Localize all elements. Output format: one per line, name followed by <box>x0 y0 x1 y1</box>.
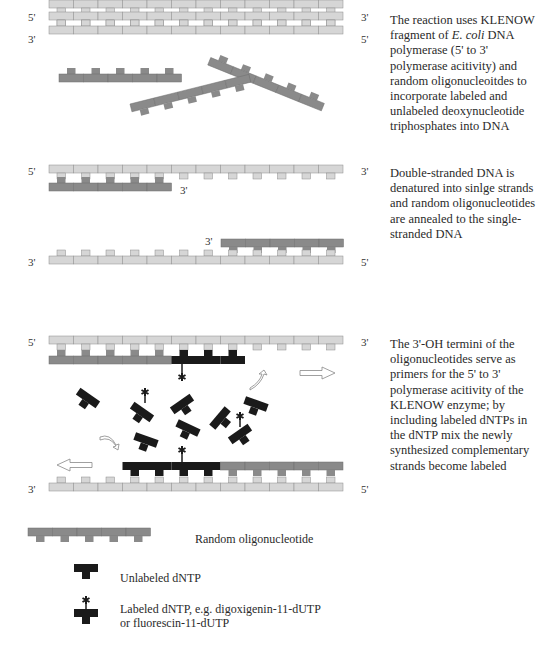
p3-top-3prime: 3' <box>361 337 368 348</box>
curved-arrow-1 <box>250 370 267 390</box>
panel2-top-strand <box>49 165 343 179</box>
panel2-bottom-strand <box>49 250 343 264</box>
panel3-bottom-primer <box>123 462 344 476</box>
legend-labeled-icon <box>74 596 98 624</box>
p1-top-5prime: 5' <box>28 12 35 23</box>
p2-top-3prime: 3' <box>361 166 368 177</box>
panel3-top-primer <box>49 350 245 364</box>
panel3-bottom-strand <box>49 477 343 491</box>
legend-oligo-label: Random oligonucleotide <box>195 532 313 546</box>
p2-bottom-3prime: 3' <box>28 257 35 268</box>
p1-top-3prime: 3' <box>361 12 368 23</box>
panel1-description: The reaction uses KLENOW fragment of E. … <box>390 13 546 135</box>
p2-bottom-5prime: 5' <box>361 257 368 268</box>
free-oligo-1 <box>59 68 182 82</box>
p2-primer2-3prime: 3' <box>205 236 212 247</box>
panel2-description: Double-stranded DNA is denatured into si… <box>390 166 535 242</box>
free-dntps <box>72 388 269 455</box>
legend-unlabeled-label: Unlabeled dNTP <box>120 571 201 585</box>
p1-bottom-5prime: 5' <box>361 34 368 45</box>
direction-arrow-right <box>300 367 335 379</box>
direction-arrow-left <box>57 459 92 471</box>
panel1-dsDNA <box>49 0 343 34</box>
curved-arrow-2 <box>100 436 119 450</box>
legend-oligo-icon <box>28 528 151 542</box>
panel3-top-strand <box>49 336 343 350</box>
panel3-description: The 3'-OH termini of the oligonucleotide… <box>390 337 529 474</box>
p1-bottom-3prime: 3' <box>28 34 35 45</box>
legend-unlabeled-icon <box>74 564 98 579</box>
p2-primer1-3prime: 3' <box>180 185 187 196</box>
label-star <box>179 373 186 381</box>
legend-labeled-label: Labeled dNTP, e.g. digoxigenin-11-dUTP o… <box>120 602 321 630</box>
p3-bottom-5prime: 5' <box>361 484 368 495</box>
p2-top-5prime: 5' <box>28 166 35 177</box>
p3-bottom-3prime: 3' <box>28 484 35 495</box>
panel2-primer-top <box>49 177 172 191</box>
p3-top-5prime: 5' <box>28 337 35 348</box>
bottom-strand <box>49 20 343 34</box>
